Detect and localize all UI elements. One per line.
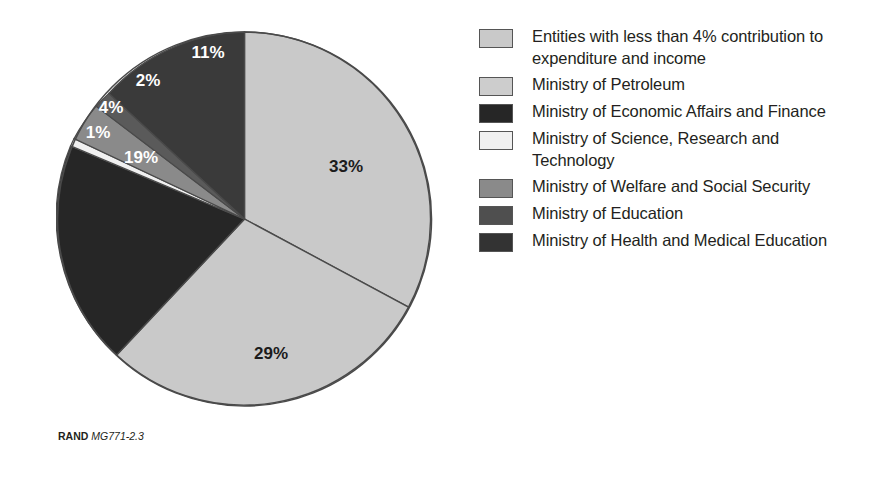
pie-label-1-percent: 1% [86,123,111,142]
legend-item-label: Ministry of Welfare and Social Security [532,176,810,198]
legend-item-ministry-of-economic-affairs-and-finance[interactable]: Ministry of Economic Affairs and Finance [479,101,859,123]
legend-item-ministry-of-education[interactable]: Ministry of Education [479,203,859,225]
legend-swatch-icon [479,104,513,123]
legend-item-ministry-of-health-and-medical-education[interactable]: Ministry of Health and Medical Education [479,230,859,252]
legend-item-ministry-of-petroleum[interactable]: Ministry of Petroleum [479,74,859,96]
legend-item-ministry-of-science-research-and-technology[interactable]: Ministry of Science, Research and Techno… [479,128,859,171]
legend-swatch-icon [479,206,513,225]
legend-item-label: Ministry of Science, Research and Techno… [532,128,859,171]
pie-label-33-percent: 33% [329,157,363,176]
pie-label-11-percent: 11% [191,43,224,62]
legend-item-label: Entities with less than 4% contribution … [532,26,859,69]
legend-swatch-icon [479,179,513,198]
legend-item-label: Ministry of Economic Affairs and Finance [532,101,826,123]
legend-swatch-icon [479,131,513,150]
legend-swatch-icon [479,77,513,96]
legend-item-label: Ministry of Petroleum [532,74,685,96]
legend-item-ministry-of-welfare-and-social-security[interactable]: Ministry of Welfare and Social Security [479,176,859,198]
pie-label-4-percent: 4% [99,98,124,117]
figure-container: 33% 29% 19% 1% 4% 2% 11% Entities with l… [0,0,873,486]
figure-number: MG771-2.3 [91,430,144,442]
legend-item-label: Ministry of Health and Medical Education [532,230,827,252]
legend-item-entities-under-4-percent[interactable]: Entities with less than 4% contribution … [479,26,859,69]
pie-label-19-percent: 19% [124,148,158,167]
legend-swatch-icon [479,233,513,252]
pie-chart: 33% 29% 19% 1% 4% 2% 11% [56,20,433,418]
legend-swatch-icon [479,29,513,48]
pie-chart-svg: 33% 29% 19% 1% 4% 2% 11% [56,20,433,418]
pie-label-2-percent: 2% [136,71,161,90]
figure-source-note: RANDMG771-2.3 [58,430,144,442]
legend: Entities with less than 4% contribution … [479,26,859,257]
pie-label-29-percent: 29% [254,344,288,363]
rand-logotype: RAND [58,430,88,442]
legend-item-label: Ministry of Education [532,203,683,225]
